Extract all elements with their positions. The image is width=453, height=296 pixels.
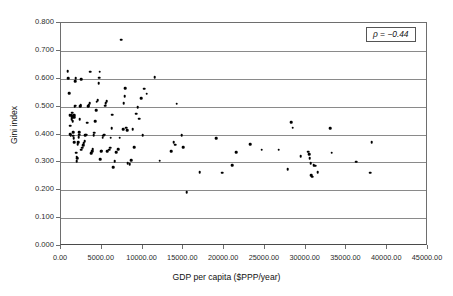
x-tick-mark [427, 245, 428, 249]
scatter-point [180, 134, 183, 137]
scatter-point [141, 134, 144, 137]
y-tick-label: 0.400 [18, 129, 54, 138]
scatter-point [136, 106, 139, 109]
y-tick-label: 0.800 [18, 17, 54, 26]
scatter-point [67, 77, 70, 80]
scatter-point [81, 147, 84, 150]
scatter-point [78, 133, 81, 136]
scatter-point [92, 134, 95, 137]
scatter-point [235, 151, 238, 154]
scatter-point [126, 129, 129, 132]
scatter-point [79, 104, 82, 107]
scatter-point [75, 151, 78, 154]
scatter-point [66, 70, 69, 73]
scatter-point [74, 80, 77, 83]
scatter-point [91, 150, 94, 153]
scatter-point [308, 153, 311, 156]
scatter-point [176, 103, 179, 106]
scatter-point [118, 137, 121, 140]
scatter-point [170, 150, 173, 153]
scatter-point [123, 102, 126, 105]
scatter-point [77, 136, 80, 139]
scatter-point [133, 146, 136, 149]
scatter-point [88, 102, 91, 105]
scatter-point [355, 160, 358, 163]
y-tick-label: 0.500 [18, 101, 54, 110]
scatter-point [369, 171, 372, 174]
scatter-point [80, 78, 83, 81]
data-points-layer [61, 23, 426, 244]
y-tick-label: 0.000 [18, 240, 54, 249]
scatter-point [123, 95, 126, 98]
scatter-point [78, 131, 81, 134]
scatter-point [96, 99, 99, 102]
scatter-point [74, 77, 77, 80]
scatter-point [329, 127, 332, 130]
x-tick-mark [60, 245, 61, 249]
scatter-point [83, 140, 86, 143]
scatter-point [314, 164, 317, 167]
y-tick-label: 0.100 [18, 212, 54, 221]
correlation-annotation: ρ = −0.44 [366, 27, 416, 42]
scatter-point [317, 171, 320, 174]
x-tick-mark [223, 245, 224, 249]
scatter-point [185, 191, 188, 194]
scatter-point [69, 124, 72, 127]
scatter-point [78, 118, 81, 121]
scatter-point [286, 168, 289, 171]
plot-area [60, 22, 427, 245]
x-axis-title: GDP per capita ($PPP/year) [0, 272, 453, 282]
x-tick-mark [386, 245, 387, 249]
scatter-point [330, 152, 333, 155]
x-tick-mark [101, 245, 102, 249]
x-tick-mark [345, 245, 346, 249]
scatter-point [277, 149, 280, 152]
x-tick-label: 0.00 [53, 253, 67, 262]
scatter-point [117, 148, 120, 151]
x-tick-label: 15000.00 [167, 253, 197, 262]
scatter-point [72, 137, 75, 140]
scatter-point [99, 158, 102, 161]
scatter-point [311, 176, 314, 179]
scatter-point [72, 120, 75, 123]
scatter-point [221, 171, 224, 174]
scatter-point [94, 120, 97, 123]
scatter-point [73, 116, 76, 119]
scatter-point [143, 87, 146, 90]
scatter-point [231, 164, 234, 167]
x-tick-mark [182, 245, 183, 249]
scatter-point [260, 149, 263, 152]
scatter-point [145, 92, 148, 95]
scatter-point [98, 76, 101, 79]
x-tick-label: 45000.00 [412, 253, 442, 262]
scatter-point [115, 151, 118, 154]
scatter-point [72, 131, 75, 134]
scatter-point [128, 163, 131, 166]
scatter-point [76, 160, 79, 163]
y-tick-label: 0.700 [18, 45, 54, 54]
scatter-point [138, 118, 141, 121]
scatter-point [90, 152, 93, 155]
x-tick-mark [305, 245, 306, 249]
scatter-point [104, 104, 107, 107]
scatter-point [68, 92, 71, 95]
scatter-point [182, 146, 185, 149]
scatter-point [122, 128, 125, 131]
y-tick-label: 0.600 [18, 73, 54, 82]
scatter-point [291, 127, 294, 130]
x-tick-label: 30000.00 [289, 253, 319, 262]
scatter-point [105, 100, 108, 103]
scatter-point [153, 76, 156, 79]
scatter-point [112, 166, 115, 169]
scatter-point [100, 149, 103, 152]
scatter-point [309, 162, 312, 165]
scatter-point [103, 133, 106, 136]
scatter-point [110, 127, 113, 130]
scatter-plot-figure: 0.0000.1000.2000.3000.4000.5000.6000.700… [0, 0, 453, 296]
y-axis-title: Gini index [9, 85, 19, 165]
scatter-point [93, 132, 96, 135]
scatter-point [120, 38, 123, 41]
scatter-point [130, 159, 133, 162]
scatter-point [140, 97, 143, 100]
scatter-point [290, 121, 293, 124]
